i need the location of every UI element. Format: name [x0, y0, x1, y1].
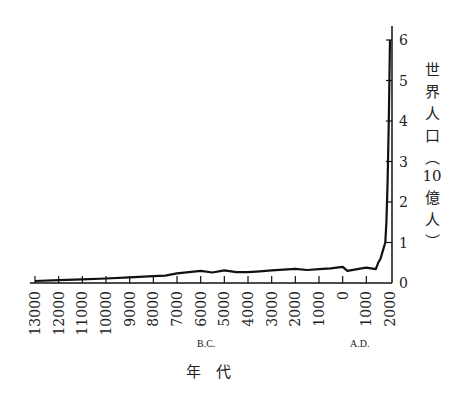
bc-label: B.C.	[197, 338, 215, 349]
y-axis-title: 世界人口︵10億人︶	[422, 61, 441, 251]
svg-text:人: 人	[425, 105, 440, 123]
x-tick-label: 6000	[193, 291, 209, 327]
svg-text:界: 界	[425, 83, 440, 101]
axes	[30, 26, 392, 283]
y-tick-label: 5	[399, 73, 408, 89]
x-tick-label: 9000	[122, 291, 138, 327]
svg-text:人: 人	[425, 211, 440, 229]
x-tick-label: 5000	[216, 291, 232, 327]
x-tick-label: 7000	[169, 291, 185, 327]
population-curve	[35, 40, 390, 281]
x-tick-label: 10000	[98, 291, 114, 336]
svg-text:10: 10	[422, 167, 441, 185]
svg-text:世: 世	[425, 61, 440, 79]
x-tick-label: 0	[335, 291, 351, 300]
y-tick-label: 2	[399, 194, 408, 210]
svg-text:︵: ︵	[425, 149, 440, 167]
x-tick-label: 1000	[358, 291, 374, 327]
x-tick-label: 13000	[27, 291, 43, 336]
x-tick-label: 2000	[382, 291, 398, 327]
y-tick-label: 3	[399, 154, 408, 170]
x-tick-label: 4000	[240, 291, 256, 327]
x-axis-title: 年 代	[186, 363, 231, 381]
x-tick-label: 11000	[74, 291, 90, 336]
ad-label: A.D.	[350, 338, 369, 349]
y-tick-label: 0	[399, 275, 408, 291]
svg-text:口: 口	[425, 127, 440, 145]
x-tick-label: 8000	[145, 291, 161, 327]
y-tick-label: 1	[399, 235, 408, 251]
y-tick-label: 6	[399, 32, 408, 48]
x-tick-label: 2000	[287, 291, 303, 327]
y-tick-label: 4	[399, 113, 408, 129]
x-tick-label: 12000	[51, 291, 67, 336]
x-tick-label: 3000	[264, 291, 280, 327]
svg-text:︶: ︶	[425, 233, 440, 251]
population-chart: 0123456 13000120001100010000900080007000…	[0, 0, 466, 396]
x-tick-label: 1000	[311, 291, 327, 327]
x-axis-ticks: 1300012000110001000090008000700060005000…	[27, 276, 398, 336]
svg-text:億: 億	[425, 189, 440, 207]
